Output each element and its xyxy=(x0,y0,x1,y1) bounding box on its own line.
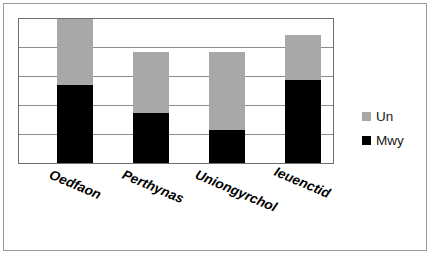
category-label-2: Uniongyrchol xyxy=(193,167,279,215)
bar-segment-mwy[interactable] xyxy=(285,80,321,163)
chart-card: Oedfaon Perthynas Uniongyrchol Ieuenctid… xyxy=(3,3,427,251)
bar-segment-mwy[interactable] xyxy=(57,85,93,163)
legend-item-un[interactable]: Un xyxy=(362,107,426,126)
category-axis: Oedfaon Perthynas Uniongyrchol Ieuenctid xyxy=(18,164,338,226)
bar-segment-mwy[interactable] xyxy=(133,113,169,163)
plot-area xyxy=(18,18,334,164)
legend-label-un: Un xyxy=(376,110,393,124)
bar-uniongyrchol[interactable] xyxy=(209,52,245,163)
legend-label-mwy: Mwy xyxy=(376,134,404,148)
bar-segment-un[interactable] xyxy=(57,19,93,85)
bar-ieuenctid[interactable] xyxy=(285,35,321,163)
bar-oedfaon[interactable] xyxy=(57,19,93,163)
category-label-3: Ieuenctid xyxy=(272,164,332,201)
category-label-1: Perthynas xyxy=(120,167,186,206)
legend-item-mwy[interactable]: Mwy xyxy=(362,131,426,150)
legend: Un Mwy xyxy=(362,107,426,155)
bar-perthynas[interactable] xyxy=(133,52,169,163)
bar-segment-un[interactable] xyxy=(133,52,169,113)
bar-segment-un[interactable] xyxy=(209,52,245,131)
bar-segment-un[interactable] xyxy=(285,35,321,81)
legend-swatch-un xyxy=(362,112,371,121)
legend-swatch-mwy xyxy=(362,136,371,145)
bar-segment-mwy[interactable] xyxy=(209,130,245,163)
category-label-0: Oedfaon xyxy=(47,167,103,202)
